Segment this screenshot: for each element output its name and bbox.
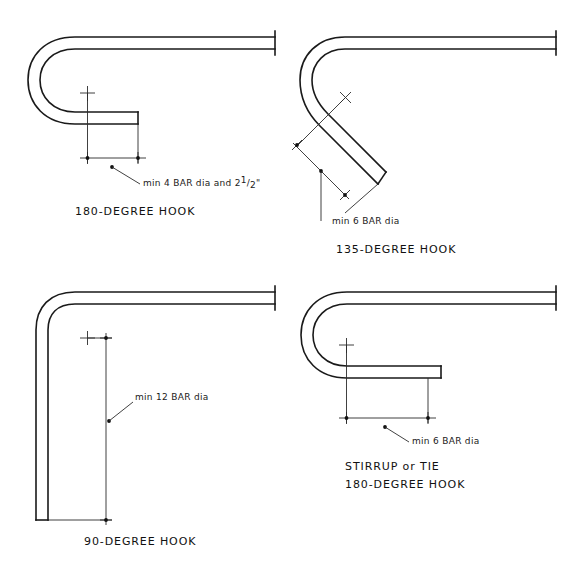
figure-title-90: 90-DEGREE HOOK	[84, 535, 196, 548]
extension-line-lower-135	[345, 184, 378, 213]
annotation-text-stirrup: min 6 BAR dia	[412, 436, 480, 446]
annotation-text-90: min 12 BAR dia	[135, 392, 209, 402]
rebar-inner-profile-90	[48, 304, 275, 520]
dimension-endpoint-dot-lower-135	[343, 193, 347, 197]
rebar-tail-end-cap-135	[378, 172, 386, 184]
leader-line-stirrup	[385, 427, 409, 442]
figure-title-135: 135-DEGREE HOOK	[336, 243, 456, 256]
figure-hook-135: min 6 BAR dia 135-DEGREE HOOK	[292, 31, 556, 256]
figure-hook-90: min 12 BAR dia 90-DEGREE HOOK	[36, 286, 275, 548]
rebar-outer-profile-90	[36, 292, 275, 520]
rebar-inner-profile-180	[40, 49, 275, 112]
annotation-text-135: min 6 BAR dia	[332, 216, 400, 226]
figure-hook-180: min 4 BAR dia and 21/2" 180-DEGREE HOOK	[28, 31, 275, 218]
rebar-inner-profile-stirrup	[313, 304, 556, 366]
dimension-endpoint-dot-right-stirrup	[426, 416, 430, 420]
leader-line-90	[109, 402, 133, 421]
figure-hook-stirrup-180: min 6 BAR dia STIRRUP or TIE 180-DEGREE …	[301, 286, 556, 491]
figure-title-stirrup-line2: 180-DEGREE HOOK	[345, 478, 465, 491]
annotation-text-180: min 4 BAR dia and 21/2"	[143, 175, 261, 190]
dimension-endpoint-dot-left-180	[86, 156, 90, 160]
dimension-endpoint-dot-left-stirrup	[345, 416, 349, 420]
figure-title-180: 180-DEGREE HOOK	[75, 205, 195, 218]
rebar-hook-detail-sheet: min 4 BAR dia and 21/2" 180-DEGREE HOOK	[0, 0, 581, 578]
rebar-outer-profile-135	[300, 37, 556, 184]
dimension-endpoint-dot-bottom-90	[104, 518, 108, 522]
dimension-endpoint-dot-top-90	[104, 336, 108, 340]
drawing-canvas: min 4 BAR dia and 21/2" 180-DEGREE HOOK	[0, 0, 581, 578]
leader-line-180	[112, 167, 140, 184]
dimension-endpoint-dot-upper-135	[295, 143, 299, 147]
dimension-endpoint-dot-right-180	[136, 156, 140, 160]
figure-title-stirrup-line1: STIRRUP or TIE	[345, 460, 440, 473]
